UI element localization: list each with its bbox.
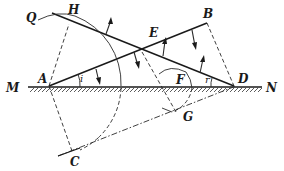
wavelet-arc-E-side	[186, 72, 192, 88]
hatch-mark	[94, 88, 98, 92]
hatch-mark	[38, 88, 42, 92]
label-E: E	[148, 26, 159, 40]
hatch-mark	[238, 88, 242, 92]
hatch-mark	[202, 88, 206, 92]
arrow-head-icon	[200, 55, 205, 62]
arrow-head-icon	[135, 61, 140, 69]
ray-arrow-3	[96, 69, 101, 85]
dashed-line-AH	[49, 24, 69, 86]
hatch-mark	[146, 88, 150, 92]
hatch-mark	[234, 88, 238, 92]
hatch-mark	[158, 88, 162, 92]
label-C: C	[70, 155, 80, 169]
hatch-mark	[90, 88, 94, 92]
hatch-mark	[66, 88, 70, 92]
hatch-mark	[142, 88, 146, 92]
angle-r-arc	[211, 78, 212, 87]
hatch-mark	[178, 88, 182, 92]
hatch-mark	[42, 88, 46, 92]
wavelet-arc-A-end	[80, 138, 98, 150]
hatch-mark	[194, 88, 198, 92]
hatch-mark	[30, 88, 34, 92]
hatch-mark	[154, 88, 158, 92]
hatch-mark	[50, 88, 54, 92]
hatch-mark	[170, 88, 174, 92]
hatch-mark	[250, 88, 254, 92]
hatch-mark	[46, 88, 50, 92]
hatch-mark	[210, 88, 214, 92]
hatch-mark	[166, 88, 170, 92]
arrow-head-icon	[192, 42, 197, 50]
hatch-mark	[102, 88, 106, 92]
hatch-mark	[242, 88, 246, 92]
dashed-line-AC	[49, 86, 72, 151]
ray-arrow-1	[106, 17, 113, 34]
hatch-mark	[182, 88, 186, 92]
ray-arrow-2	[134, 52, 140, 69]
arrow-head-icon	[96, 77, 101, 85]
hatch-mark	[186, 88, 190, 92]
refraction-diagram: Q H B E M A i F r D N G C	[0, 0, 284, 171]
hatch-mark	[258, 88, 262, 92]
label-Q: Q	[26, 11, 37, 25]
hatch-mark	[254, 88, 258, 92]
refracted-wavefront-CD	[58, 86, 236, 156]
hatch-mark	[110, 88, 114, 92]
hatch-mark	[134, 88, 138, 92]
label-H: H	[67, 3, 80, 17]
arrow-head-icon	[108, 17, 113, 24]
hatch-mark	[206, 88, 210, 92]
wavelet-arc-E-tail	[162, 108, 172, 112]
hatch-mark	[130, 88, 134, 92]
hatch-mark	[198, 88, 202, 92]
hatch-mark	[58, 88, 62, 92]
label-F: F	[175, 73, 186, 87]
hatch-mark	[54, 88, 58, 92]
surface-hatching	[30, 88, 262, 92]
hatch-mark	[86, 88, 90, 92]
wavelet-arc-A-lower	[98, 88, 121, 138]
hatch-mark	[70, 88, 74, 92]
ray-arrow-4	[192, 30, 197, 50]
hatch-mark	[98, 88, 102, 92]
hatch-mark	[150, 88, 154, 92]
hatch-mark	[78, 88, 82, 92]
hatch-mark	[214, 88, 218, 92]
hatch-mark	[62, 88, 66, 92]
label-B: B	[202, 7, 213, 21]
hatch-mark	[34, 88, 38, 92]
ray-arrow-6	[200, 55, 205, 73]
hatch-mark	[126, 88, 130, 92]
hatch-mark	[74, 88, 78, 92]
label-D: D	[237, 72, 249, 86]
hatch-mark	[122, 88, 126, 92]
hatch-mark	[138, 88, 142, 92]
label-M: M	[5, 81, 20, 95]
label-G: G	[183, 110, 193, 124]
label-angle-i: i	[80, 73, 83, 84]
label-N: N	[265, 81, 278, 95]
hatch-mark	[106, 88, 110, 92]
hatch-mark	[82, 88, 86, 92]
hatch-mark	[246, 88, 250, 92]
label-A: A	[37, 72, 47, 86]
hatch-mark	[174, 88, 178, 92]
hatch-mark	[114, 88, 118, 92]
